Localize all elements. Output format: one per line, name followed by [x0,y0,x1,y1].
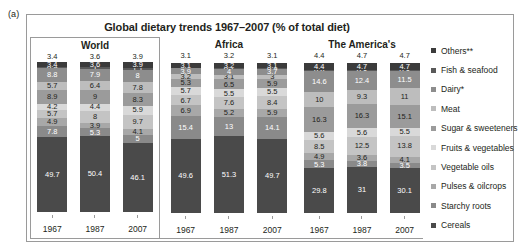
bar-segment[interactable]: 4.4 [80,104,110,111]
bar-column[interactable]: 4.74.70.811.51115.15.513.84.13.530.12007 [390,37,420,239]
bar-segment[interactable]: 13.8 [390,136,420,157]
bar-segment[interactable]: 11 [390,88,420,104]
legend-item[interactable]: Meat [431,99,521,118]
bar-segment[interactable]: 31 [347,167,377,214]
bar-stack: 4.70.812.49.316.35.612.53.63.831 [347,63,377,213]
bar-segment[interactable]: 5.6 [347,128,377,136]
bar-segment[interactable]: 4.9 [37,118,67,125]
bar-column[interactable]: 3.43.40.98.85.78.94.25.74.97.849.71967 [37,38,67,238]
bar-top-value: 4.4 [304,51,334,60]
bar-segment[interactable]: 13 [214,117,244,136]
bar-segment[interactable]: 5.5 [257,88,287,96]
bar-segment[interactable]: 5.7 [37,82,67,91]
bar-segment[interactable]: 5.9 [257,109,287,118]
bar-segment[interactable]: 7.8 [123,82,153,94]
bar-segment[interactable]: 7.8 [37,126,67,138]
legend-item[interactable]: Dairy* [431,80,521,99]
bar-segment[interactable]: 9.7 [123,115,153,130]
legend-swatch [431,48,436,53]
bar-segment[interactable]: 8.4 [257,96,287,109]
bar-segment[interactable]: 8 [123,70,153,82]
legend-swatch [431,87,436,92]
bar-segment[interactable]: 5.9 [257,79,287,88]
bar-segment[interactable]: 51.3 [214,136,244,213]
bar-segment[interactable]: 4.7 [347,63,377,70]
legend-item[interactable]: Pulses & oilcrops [431,177,521,196]
bar-segment[interactable]: 8.8 [37,68,67,81]
axis-tick [404,216,405,219]
bar-column[interactable]: 3.63.617.96.494.483.95.350.41987 [80,38,110,238]
bar-segment[interactable]: 14.6 [304,71,334,93]
legend-item[interactable]: Sugar & sweeteners [431,119,521,138]
legend-label: Sugar & sweeteners [441,123,518,133]
legend-item[interactable]: Fruits & vegetables [431,138,521,157]
bar-segment[interactable]: 5 [123,135,153,143]
bar-segment[interactable]: 46.1 [123,143,153,212]
legend-label: Dairy* [441,84,464,94]
bar-segment[interactable]: 6.5 [214,79,244,89]
bar-segment[interactable]: 5.5 [214,89,244,97]
figure-label: (a) [8,9,19,19]
bar-stack: 3.20.743.16.55.57.65.21351.3 [214,63,244,213]
bar-segment[interactable]: 5.5 [390,128,420,136]
bar-stack: 3.10.53.93.25.35.76.76.915.449.6 [171,63,201,213]
bar-segment[interactable]: 9.3 [347,90,377,104]
bar-top-value: 4.7 [390,51,420,60]
legend-item[interactable]: Cereals [431,216,521,235]
bar-segment[interactable]: 5.6 [304,132,334,140]
bar-segment[interactable]: 30.1 [390,168,420,213]
bar-segment[interactable]: 4.4 [304,63,334,70]
bar-segment[interactable]: 5.7 [37,110,67,119]
bar-segment[interactable]: 12.5 [347,137,377,156]
bar-segment[interactable]: 5.2 [214,109,244,117]
bar-segment[interactable]: 49.6 [171,139,201,213]
bar-segment[interactable]: 5.3 [304,160,334,168]
bar-segment[interactable]: 9 [80,90,110,104]
bar-column[interactable]: 3.93.91.187.88.35.99.74.1546.12007 [123,38,153,238]
bar-segment[interactable]: 12.4 [347,71,377,90]
bar-segment[interactable]: 6.4 [80,81,110,91]
bar-column[interactable]: 4.44.40.614.61016.35.68.54.95.329.81967 [304,37,334,239]
bar-segment[interactable]: 11.5 [390,71,420,88]
bar-segment[interactable]: 16.3 [347,104,377,128]
bar-segment[interactable]: 15.4 [171,116,201,139]
bar-segment[interactable]: 15.1 [390,105,420,128]
bar-column[interactable]: 3.13.10.93.735.95.58.45.914.149.72007 [257,37,287,239]
bar-segment[interactable]: 10 [304,92,334,107]
bar-segment[interactable]: 5.9 [123,106,153,115]
bar-segment[interactable]: 29.8 [304,168,334,213]
bar-segment[interactable]: 5.3 [171,79,201,87]
legend-item[interactable]: Starchy roots [431,196,521,215]
x-axis-label: 1987 [214,225,244,235]
bar-segment[interactable]: 4.9 [304,153,334,160]
bar-segment[interactable]: 5.3 [80,128,110,136]
bar-column[interactable]: 3.13.10.53.93.25.35.76.76.915.449.61967 [171,37,201,239]
bar-segment[interactable]: 16.3 [304,107,334,131]
legend-item[interactable]: Fish & seafood [431,60,521,79]
bar-segment[interactable]: 8 [80,111,110,123]
bar-segment[interactable]: 7.6 [214,97,244,108]
bar-column[interactable]: 4.74.70.812.49.316.35.612.53.63.8311987 [347,37,377,239]
bar-segment[interactable]: 8.5 [304,140,334,153]
bar-segment[interactable]: 4.7 [390,63,420,70]
bar-segment[interactable]: 5.7 [171,87,201,96]
bar-segment[interactable]: 7.9 [80,69,110,81]
bar-segment[interactable]: 8.9 [37,90,67,103]
bar-segment[interactable]: 8.3 [123,93,153,105]
bar-segment[interactable]: 49.7 [257,139,287,213]
bar-column[interactable]: 3.23.20.743.16.55.57.65.21351.31987 [214,37,244,239]
bar-segment[interactable]: 49.7 [37,137,67,212]
legend-item[interactable]: Vegetable oils [431,157,521,176]
bar-segment[interactable]: 6.7 [171,95,201,105]
legend-swatch [431,106,436,111]
bar-segment[interactable]: 6.9 [171,105,201,115]
bar-segment[interactable]: 14.1 [257,117,287,138]
bar-top-value: 3.1 [257,51,287,60]
x-axis-label: 1987 [347,225,377,235]
legend-item[interactable]: Others** [431,41,521,60]
region-group: Africa3.13.10.53.93.25.35.76.76.915.449.… [164,37,294,239]
x-axis-label: 2007 [123,224,153,234]
bar-segment[interactable]: 50.4 [80,136,110,212]
legend-label: Fruits & vegetables [441,143,514,153]
x-axis-label: 1987 [80,224,110,234]
